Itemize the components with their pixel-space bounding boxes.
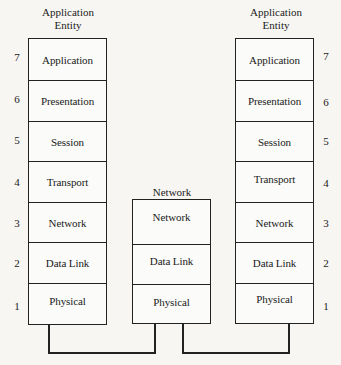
link-left-to-network-up: [154, 323, 156, 354]
layer-label: Data Link: [46, 257, 89, 269]
layer-label: Network: [256, 217, 294, 229]
left-layer-number-4: 4: [12, 176, 22, 188]
left-layer-number-2: 2: [12, 257, 22, 269]
left-layer-physical: Physical: [29, 284, 106, 324]
right-layer-number-5: 5: [321, 135, 331, 147]
right-layer-number-4: 4: [321, 177, 331, 189]
layer-label: Transport: [47, 176, 88, 188]
right-layer-session: Session: [236, 122, 313, 162]
link-network-to-right-up: [288, 323, 290, 354]
right-application-entity-stack: Application Presentation Session Transpo…: [235, 38, 314, 324]
layer-label: Transport: [254, 173, 295, 185]
middle-layer-physical: Physical: [133, 285, 210, 323]
right-layer-number-7: 7: [321, 50, 331, 62]
left-application-entity-stack: Application Presentation Session Transpo…: [28, 38, 107, 325]
left-title-line2: Entity: [18, 19, 118, 32]
right-stack-title: Application Entity: [226, 6, 326, 32]
right-title-line2: Entity: [226, 19, 326, 32]
layer-label: Physical: [49, 295, 85, 307]
middle-layer-data-link: Data Link: [133, 245, 210, 285]
left-layer-number-6: 6: [12, 93, 22, 105]
left-layer-network: Network: [29, 203, 106, 243]
link-left-to-network-bottom: [48, 352, 155, 354]
layer-label: Application: [249, 54, 300, 66]
layer-label: Physical: [256, 293, 292, 305]
layer-label: Network: [153, 211, 191, 223]
layer-label: Presentation: [248, 95, 301, 107]
right-layer-data-link: Data Link: [236, 243, 313, 284]
right-layer-transport: Transport: [236, 162, 313, 203]
layer-label: Session: [258, 136, 291, 148]
left-layer-transport: Transport: [29, 162, 106, 203]
layer-label: Presentation: [41, 95, 94, 107]
layer-label: Data Link: [150, 255, 193, 267]
right-layer-presentation: Presentation: [236, 81, 313, 122]
network-node-stack: Network Data Link Physical: [132, 199, 211, 324]
link-network-to-right-bottom: [182, 352, 289, 354]
right-layer-physical: Physical: [236, 284, 313, 323]
left-title-line1: Application: [18, 6, 118, 19]
layer-label: Data Link: [253, 257, 296, 269]
left-layer-number-3: 3: [12, 217, 22, 229]
left-stack-title: Application Entity: [18, 6, 118, 32]
left-layer-presentation: Presentation: [29, 81, 106, 122]
layer-label: Session: [51, 136, 84, 148]
right-title-line1: Application: [226, 6, 326, 19]
right-layer-application: Application: [236, 39, 313, 81]
right-layer-number-3: 3: [321, 217, 331, 229]
link-left-to-network-down: [48, 324, 50, 354]
left-layer-data-link: Data Link: [29, 243, 106, 284]
left-layer-number-5: 5: [12, 134, 22, 146]
right-layer-network: Network: [236, 203, 313, 243]
layer-label: Application: [42, 54, 93, 66]
left-layer-number-1: 1: [12, 300, 22, 312]
link-network-to-right-down: [182, 323, 184, 354]
layer-label: Physical: [153, 296, 189, 308]
left-layer-application: Application: [29, 39, 106, 81]
middle-layer-network: Network: [133, 200, 210, 245]
middle-stack-title: Network: [122, 186, 222, 199]
left-layer-number-7: 7: [12, 51, 22, 63]
right-layer-number-6: 6: [321, 96, 331, 108]
layer-label: Network: [49, 217, 87, 229]
right-layer-number-2: 2: [321, 257, 331, 269]
right-layer-number-1: 1: [321, 300, 331, 312]
left-layer-session: Session: [29, 122, 106, 162]
